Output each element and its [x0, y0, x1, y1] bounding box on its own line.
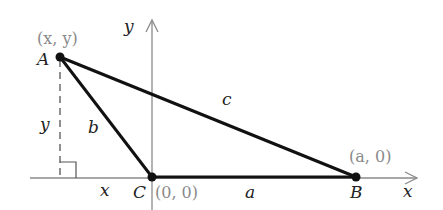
- triangle-diagram: y x A B C (x, y) (a, 0) (0, 0) b a c y x: [0, 0, 443, 210]
- vertex-a-label: A: [35, 49, 49, 69]
- x-axis-label: x: [403, 181, 413, 201]
- side-c-label: c: [222, 89, 232, 109]
- side-a-label: a: [245, 182, 255, 202]
- vertex-a-coords: (x, y): [37, 29, 78, 48]
- height-label: y: [39, 114, 50, 134]
- vertex-b-label: B: [349, 182, 363, 202]
- vertex-c-dot: [148, 173, 157, 182]
- y-axis-label: y: [123, 16, 134, 36]
- base-x-label: x: [100, 180, 110, 200]
- vertex-b-coords: (a, 0): [349, 147, 391, 166]
- vertex-c-coords: (0, 0): [155, 183, 198, 202]
- vertex-c-label: C: [133, 182, 146, 202]
- side-b-label: b: [88, 117, 99, 137]
- right-angle-marker: [60, 162, 76, 178]
- vertex-a-dot: [56, 53, 65, 62]
- vertex-b-dot: [352, 173, 361, 182]
